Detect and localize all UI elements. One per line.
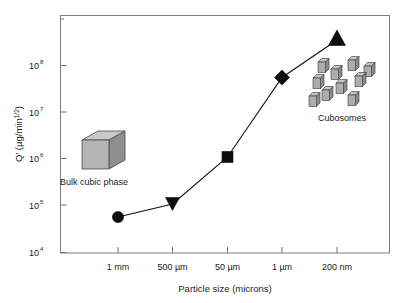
cubosome-cube [331, 66, 342, 80]
y-axis-title-end: ) [13, 106, 24, 109]
x-tick-label-1um: 1 µm [272, 262, 292, 272]
y-tick-label-exp: 8 [40, 59, 44, 65]
y-tick-label-exp: 5 [40, 199, 44, 205]
cubosome-cube [318, 59, 329, 73]
y-tick-label-text: 10 [29, 108, 39, 118]
y-axis-title-exponent: 1/2 [13, 109, 20, 118]
data-point-marker-circle[interactable] [112, 211, 123, 222]
chart-figure: 10 8 10 7 10 6 10 5 10 4 Q' (µg/min1/2) [0, 0, 402, 303]
data-point-marker-square[interactable] [222, 152, 233, 163]
bulk-cubic-phase-label: Bulk cubic phase [60, 177, 128, 187]
cubosome-cube [348, 57, 359, 71]
cubosomes-label: Cubosomes [318, 113, 367, 123]
chart-canvas: 10 8 10 7 10 6 10 5 10 4 Q' (µg/min1/2) [0, 0, 402, 303]
cubosomes-icon-cluster [309, 57, 375, 107]
y-tick-label-1e4: 10 4 [29, 246, 44, 258]
x-tick-label-500um: 500 µm [157, 262, 187, 272]
y-tick-label-exp: 6 [40, 152, 44, 158]
y-axis-title: Q' (µg/min1/2) [13, 106, 24, 162]
cubosome-cube [348, 92, 359, 106]
y-tick-label-text: 10 [29, 248, 39, 258]
y-tick-label-exp: 4 [40, 246, 44, 252]
series-line-diffusion [118, 40, 337, 217]
data-point-marker-diamond[interactable] [275, 70, 290, 85]
x-tick-label-1mm: 1 mm [107, 262, 130, 272]
y-tick-label-exp: 7 [40, 106, 44, 112]
y-tick-label-1e8: 10 8 [29, 59, 44, 71]
y-axis-title-text: Q' (µg/min1/2) [13, 106, 24, 162]
y-axis-title-base: Q' (µg/min [13, 118, 24, 162]
x-tick-label-200nm: 200 nm [322, 262, 352, 272]
y-tick-label-text: 10 [29, 61, 39, 71]
cubosome-cube [355, 73, 366, 87]
y-tick-label-1e6: 10 6 [29, 152, 44, 164]
data-point-marker-triangle-down[interactable] [166, 198, 180, 211]
x-axis-title: Particle size (microns) [178, 283, 271, 294]
data-point-marker-triangle-up[interactable] [329, 30, 346, 46]
cubosome-cube [336, 80, 347, 94]
cubosome-cube [322, 87, 333, 101]
x-axis-ticks [118, 247, 337, 253]
y-tick-label-1e5: 10 5 [29, 199, 44, 211]
x-tick-label-50um: 50 µm [215, 262, 240, 272]
cubosome-cube [313, 75, 324, 89]
y-axis-ticks [61, 19, 67, 253]
y-tick-label-text: 10 [29, 201, 39, 211]
y-tick-label-text: 10 [29, 154, 39, 164]
y-tick-label-1e7: 10 7 [29, 106, 44, 118]
bulk-cubic-phase-icon [82, 131, 125, 169]
cubosome-cube [309, 93, 320, 107]
